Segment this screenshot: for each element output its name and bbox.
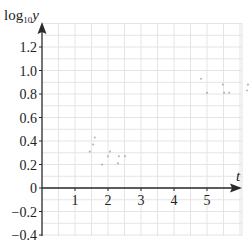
y-tick-label: 0.2 bbox=[20, 158, 38, 173]
data-point bbox=[247, 84, 249, 86]
data-point bbox=[109, 150, 111, 152]
data-point bbox=[117, 162, 119, 164]
log-plot: 12345 1.21.00.80.60.40.20−0.2−0.4 t log1… bbox=[0, 0, 251, 250]
data-point bbox=[118, 155, 120, 157]
data-point bbox=[228, 92, 230, 94]
data-point bbox=[94, 136, 96, 138]
y-tick-label: 1.2 bbox=[20, 40, 38, 55]
data-point bbox=[222, 84, 224, 86]
y-tick-label: −0.2 bbox=[12, 205, 37, 220]
x-tick-label: 1 bbox=[72, 193, 79, 208]
data-point bbox=[124, 155, 126, 157]
x-tick-label: 3 bbox=[138, 193, 145, 208]
y-tick-label: 0.8 bbox=[20, 87, 38, 102]
x-tick-label: 2 bbox=[105, 193, 112, 208]
y-tick-label: 0.6 bbox=[20, 111, 38, 126]
data-point bbox=[107, 155, 109, 157]
x-tick-label: 4 bbox=[171, 193, 178, 208]
x-ticks: 12345 bbox=[72, 188, 211, 208]
data-point bbox=[92, 143, 94, 145]
data-point bbox=[223, 92, 225, 94]
data-point bbox=[200, 78, 202, 80]
y-tick-label: 0.4 bbox=[20, 134, 38, 149]
y-tick-label: 1.0 bbox=[20, 64, 38, 79]
y-tick-label: −0.4 bbox=[12, 228, 37, 243]
y-axis-label-log: log bbox=[4, 7, 24, 23]
y-axis-label: log10y bbox=[4, 7, 39, 25]
data-point bbox=[246, 89, 248, 91]
y-axis-label-var: y bbox=[30, 7, 39, 23]
y-tick-label: 0 bbox=[30, 181, 37, 196]
data-point bbox=[89, 150, 91, 152]
x-tick-label: 5 bbox=[204, 193, 211, 208]
y-ticks: 1.21.00.80.60.40.20−0.2−0.4 bbox=[12, 40, 42, 243]
data-point bbox=[206, 92, 208, 94]
data-point bbox=[101, 163, 103, 165]
